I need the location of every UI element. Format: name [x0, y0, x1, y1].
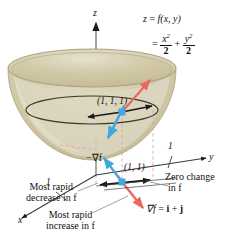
equation-z: z — [143, 13, 147, 24]
equation-line-2: = x2 2 + y2 2 — [152, 33, 195, 57]
equation-equals-1: = — [149, 13, 155, 24]
gradient-plus: + — [172, 203, 178, 214]
zero-change-line-1: Zero change — [165, 172, 215, 183]
equation-equals-2: = — [152, 38, 158, 49]
equation-term2-denominator: 2 — [183, 46, 195, 57]
equation-term-x-squared-over-2: x2 2 — [160, 32, 172, 56]
figure-canvas — [0, 0, 232, 242]
y-axis-tick — [168, 156, 172, 168]
gradient-equals: = — [158, 203, 164, 214]
gradient-equation-label: ∇f = i + j — [146, 204, 183, 215]
equation-plus: + — [175, 38, 181, 49]
y-axis-label: y — [209, 152, 213, 163]
equation-term-y-squared-over-2: y2 2 — [183, 32, 195, 56]
most-rapid-decrease-line-2: decrease in f — [26, 193, 77, 204]
most-rapid-decrease-line-1: Most rapid — [26, 182, 77, 193]
surface-point-label: (1, 1, 1) — [97, 97, 127, 107]
equation-term2-numerator: y2 — [183, 32, 195, 46]
equation-line-1: z = f(x, y) — [143, 14, 181, 25]
gradient-figure: z = f(x, y) = x2 2 + y2 2 z y x 1 1 (1, … — [0, 0, 232, 242]
negative-gradient-arrow — [104, 158, 122, 182]
most-rapid-increase-line-1: Most rapid — [46, 210, 95, 221]
negative-gradient-label: −∇f — [86, 153, 102, 164]
gradient-i-hat: i — [166, 203, 169, 214]
zero-change-line-2: in f — [165, 183, 215, 194]
equation-term1-numerator: x2 — [160, 32, 172, 46]
plane-point-label: (1, 1) — [124, 163, 145, 173]
zero-change-label: Zero change in f — [165, 172, 215, 193]
equation-term1-denominator: 2 — [160, 46, 172, 57]
most-rapid-increase-line-2: increase in f — [46, 221, 95, 232]
gradient-j-hat: j — [180, 203, 183, 214]
gradient-symbol: ∇f — [146, 203, 156, 214]
paraboloid-surface — [8, 49, 176, 160]
equation-fxy: f(x, y) — [158, 13, 181, 24]
gradient-arrow — [122, 182, 143, 208]
y-axis-tick-label: 1 — [168, 142, 173, 152]
z-axis-label: z — [93, 8, 97, 19]
most-rapid-increase-label: Most rapid increase in f — [46, 210, 95, 231]
most-rapid-decrease-label: Most rapid decrease in f — [26, 182, 77, 203]
surface-point-marker — [119, 109, 126, 116]
x-axis-label: x — [18, 215, 22, 226]
